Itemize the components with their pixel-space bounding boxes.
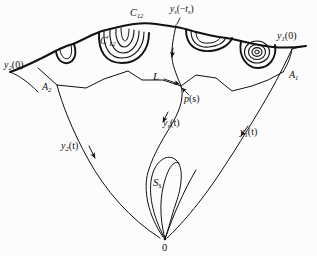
label-c12-prime: C′12 [100,36,116,48]
label-ys-t: ys(t) [163,118,180,130]
boundary-arc-group-lens [186,30,232,51]
label-y2-0: y2(0) [4,60,24,72]
label-c12: C12 [130,8,143,20]
region-S-s [151,157,182,239]
label-origin: 0 [162,243,167,254]
label-ys-minus-ts: ys(−ts) [170,5,194,15]
origin-node [164,238,167,241]
geodesic-y2 [57,85,160,238]
label-a1: A1 [289,70,299,82]
label-a2: A2 [42,82,52,94]
geodesic-ys [146,25,182,237]
label-L: L [153,71,159,82]
label-y2-t: y2(t) [61,141,78,153]
label-y1-0: y1(0) [277,31,297,43]
label-leader-ys-minus-ts [177,18,180,24]
label-y1-t: y1(t) [240,127,257,139]
diagram-canvas [0,0,317,256]
figure-container: C12 C′12 ys(−ts) y1(0) y2(0) A1 A2 L p(s… [0,0,317,256]
boundary-arc-group-spiral [240,41,275,68]
geodesic-y2-arrow [89,146,95,158]
y2-zero-tail [10,72,38,92]
top-boundary-curve [10,23,306,72]
label-p-s: p(s) [184,94,200,104]
label-S-s: Ss [153,177,161,190]
region-S-s-inner-curve [165,170,196,239]
